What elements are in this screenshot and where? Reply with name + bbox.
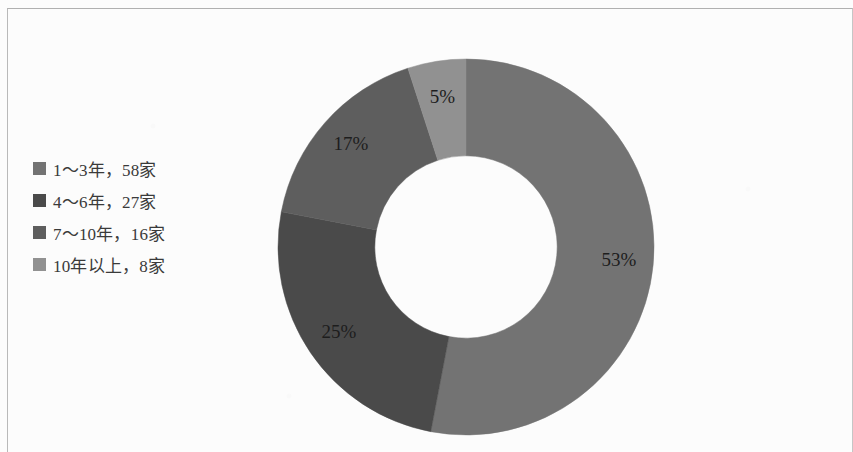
legend-item-label: 1～3年，58家 <box>53 156 157 181</box>
legend-swatch-icon <box>33 258 46 271</box>
legend-item: 1～3年，58家 <box>33 152 233 184</box>
legend-item-label: 4～6年，27家 <box>53 188 157 213</box>
legend-swatch-icon <box>33 194 46 207</box>
legend-item: 7～10年，16家 <box>33 216 233 248</box>
slice-percent-label: 5% <box>430 86 456 107</box>
chart-legend: 1～3年，58家 4～6年，27家 7～10年，16家 10年以上，8家 <box>33 152 233 280</box>
legend-item: 10年以上，8家 <box>33 248 233 280</box>
legend-item-label: 7～10年，16家 <box>53 220 165 245</box>
legend-item-label: 10年以上，8家 <box>53 252 165 277</box>
slice-percent-label: 17% <box>333 133 368 154</box>
donut-slice[interactable] <box>278 212 449 432</box>
donut-chart: 53%25%17%5% <box>276 57 656 437</box>
slice-percent-label: 53% <box>601 249 636 270</box>
legend-item: 4～6年，27家 <box>33 184 233 216</box>
donut-slices <box>278 59 654 435</box>
legend-swatch-icon <box>33 226 46 239</box>
legend-swatch-icon <box>33 162 46 175</box>
slice-percent-label: 25% <box>322 321 357 342</box>
donut-chart-svg: 53%25%17%5% <box>276 57 656 437</box>
